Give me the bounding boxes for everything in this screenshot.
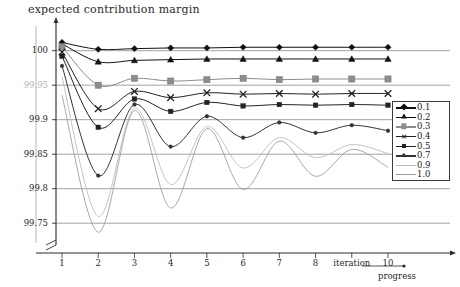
series-line <box>62 56 388 128</box>
y-tick-label: 99.95 <box>2 80 48 90</box>
marker-dot <box>350 123 354 127</box>
marker-diamond <box>95 46 101 52</box>
marker-small-square <box>313 103 318 108</box>
marker-small-square <box>349 102 354 107</box>
chart-root: expected contribution margin 10099.9599.… <box>0 0 460 287</box>
legend-label: 1.0 <box>417 170 431 179</box>
x-axis-title: iteration <box>330 258 374 268</box>
marker-diamond <box>312 44 318 50</box>
series-line <box>62 47 388 87</box>
marker-small-square <box>277 102 282 107</box>
marker-square <box>168 78 174 84</box>
legend-marker-cross-icon: × <box>395 132 417 141</box>
x-axis-progress-label: progress <box>378 271 416 281</box>
marker-small-square <box>132 97 137 102</box>
marker-square <box>131 75 137 81</box>
y-tick-label: 99.8 <box>2 183 48 193</box>
series-line <box>62 66 388 176</box>
axis-break-icon <box>46 240 56 250</box>
y-tick-label: 99.85 <box>2 149 48 159</box>
x-tick-label: 5 <box>199 258 215 268</box>
marker-small-square <box>386 103 391 108</box>
series-line <box>62 44 388 63</box>
legend-box: 0.10.20.3×0.40.50.70.91.0 <box>392 101 450 181</box>
series-0_5 <box>60 54 391 130</box>
legend-label: 0.1 <box>417 103 431 112</box>
x-tick-label: 3 <box>126 258 142 268</box>
legend-item-1_0[interactable]: 1.0 <box>393 170 449 180</box>
x-tick-label: 4 <box>163 258 179 268</box>
marker-small-square <box>168 109 173 114</box>
marker-square <box>204 77 210 83</box>
marker-square <box>95 82 101 88</box>
legend-marker-diamond-icon <box>395 103 417 112</box>
marker-diamond <box>240 44 246 50</box>
marker-square <box>349 76 355 82</box>
marker-small-square <box>96 125 101 130</box>
marker-diamond <box>349 44 355 50</box>
x-tick-label: 10 <box>380 258 396 268</box>
marker-dot <box>241 136 245 140</box>
marker-small-square <box>60 54 65 59</box>
series-0_7 <box>60 64 390 178</box>
marker-dot <box>277 121 281 125</box>
x-axis-arrow <box>450 251 456 256</box>
marker-diamond <box>168 45 174 51</box>
marker-small-square <box>241 104 246 109</box>
marker-diamond <box>204 45 210 51</box>
marker-small-square <box>205 100 210 105</box>
x-tick-label: 2 <box>90 258 106 268</box>
marker-square <box>240 75 246 81</box>
legend-marker-line-icon <box>395 161 417 170</box>
marker-dot <box>169 145 173 149</box>
marker-dot <box>60 64 64 68</box>
legend-label: 0.7 <box>417 151 431 160</box>
marker-dot <box>133 103 137 107</box>
series-line <box>62 52 388 110</box>
marker-dot <box>205 114 209 118</box>
y-tick-label: 99.75 <box>2 218 48 228</box>
series-0_3 <box>59 43 391 88</box>
x-tick-label: 6 <box>235 258 251 268</box>
series-0_4 <box>59 49 392 112</box>
marker-square <box>59 43 65 49</box>
marker-square <box>276 77 282 83</box>
series-0_9 <box>62 77 388 217</box>
legend-marker-triangle-icon <box>395 113 417 122</box>
x-tick-label: 8 <box>308 258 324 268</box>
marker-dot <box>314 131 318 135</box>
marker-dot <box>386 129 390 133</box>
y-tick-label: 99.9 <box>2 114 48 124</box>
data-series-group <box>59 39 392 232</box>
x-tick-label: 1 <box>54 258 70 268</box>
marker-diamond <box>385 44 391 50</box>
legend-marker-line-icon <box>395 170 417 179</box>
series-1_0 <box>62 96 388 233</box>
marker-square <box>385 76 391 82</box>
series-line <box>62 96 388 233</box>
series-line <box>62 77 388 217</box>
y-tick-label: 100 <box>2 45 48 55</box>
marker-dot <box>96 174 100 178</box>
chart-plot-area <box>0 0 460 287</box>
legend-item-0_4[interactable]: ×0.4 <box>393 132 449 142</box>
progress-arrow-head <box>402 264 405 267</box>
legend-marker-dot-icon <box>395 151 417 160</box>
marker-cross <box>95 105 102 112</box>
marker-square <box>312 76 318 82</box>
legend-marker-small-square-icon <box>395 142 417 151</box>
series-0_2 <box>59 41 391 65</box>
marker-diamond <box>276 44 282 50</box>
x-tick-label: 7 <box>271 258 287 268</box>
y-axis-arrow <box>54 17 59 23</box>
legend-label: 0.4 <box>417 132 431 141</box>
series-line <box>62 42 388 49</box>
